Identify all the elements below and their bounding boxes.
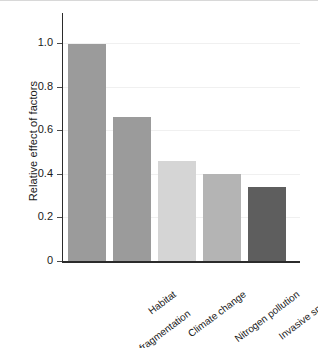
y-tick-label: 0	[47, 254, 53, 267]
x-tick-label-line1: Habitat	[146, 289, 178, 317]
y-tick-label: 0.4	[38, 167, 53, 180]
bar-habitat-fragmentation	[68, 44, 106, 262]
y-tick-2: 0.4	[57, 174, 62, 175]
bar-nitrogen-pollution	[158, 161, 196, 261]
bar-increasing-atmospheric-co2	[248, 187, 286, 261]
y-tick-4: 0.8	[57, 87, 62, 88]
y-tick-0: 0	[57, 261, 62, 262]
bar-climate-change	[113, 117, 151, 261]
top-border-rule	[0, 0, 318, 1]
y-axis-title: Relative effect of factors	[27, 46, 39, 236]
y-tick-1: 0.2	[57, 217, 62, 218]
y-axis-spine	[62, 13, 63, 262]
y-tick-label: 1.0	[38, 36, 53, 49]
plot-area: 0 0.2 0.4 0.6 0.8 1.0 Habitat fragmentat…	[62, 13, 300, 262]
y-tick-3: 0.6	[57, 130, 62, 131]
y-tick-label: 0.8	[38, 80, 53, 93]
y-tick-5: 1.0	[57, 43, 62, 44]
x-axis-spine	[62, 261, 300, 263]
y-tick-label: 0.2	[38, 210, 53, 223]
y-tick-label: 0.6	[38, 123, 53, 136]
chart-figure: Relative effect of factors 0 0.2 0.4 0.6…	[0, 0, 318, 348]
bar-invasive-species	[203, 174, 241, 261]
